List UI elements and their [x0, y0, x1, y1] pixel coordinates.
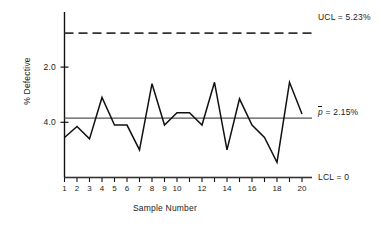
- y-tick-label-4: 4.0: [30, 117, 56, 127]
- y-axis-title: % Defective: [22, 36, 32, 126]
- x-tick-label-20: 20: [295, 184, 309, 193]
- control-chart: % Defective 4.0 2.0 12345678910121416182…: [0, 0, 381, 227]
- data-series-line: [65, 82, 303, 162]
- x-axis-title: Sample Number: [0, 203, 330, 213]
- x-tick-label-12: 12: [195, 184, 209, 193]
- x-tick-label-16: 16: [245, 184, 259, 193]
- lcl-annotation: LCL = 0: [318, 172, 349, 182]
- center-line-annotation: p = 2.15%: [318, 107, 358, 117]
- x-tick-label-10: 10: [170, 184, 184, 193]
- x-tick-label-14: 14: [220, 184, 234, 193]
- y-tick-label-2: 2.0: [30, 62, 56, 72]
- p-bar-symbol: p: [318, 107, 323, 117]
- overbar: [318, 106, 322, 107]
- center-line-value: = 2.15%: [323, 107, 358, 117]
- x-tick-label-18: 18: [270, 184, 284, 193]
- ucl-annotation: UCL = 5.23%: [318, 12, 371, 22]
